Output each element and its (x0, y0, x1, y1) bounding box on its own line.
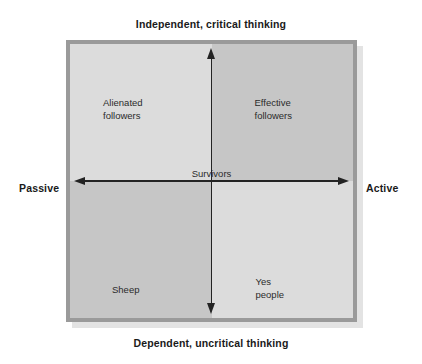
center-label-survivors: Survivors (192, 168, 232, 179)
quadrant-label-sheep: Sheep (112, 284, 139, 297)
arrow-right-inner-icon (338, 177, 349, 185)
quadrant-top-left: Alienated followers (70, 44, 212, 181)
quadrant-label-alienated-followers: Alienated followers (103, 97, 143, 122)
arrow-up-icon (207, 48, 215, 59)
quadrant-label-effective-followers: Effective followers (255, 97, 293, 122)
quadrant-bottom-right: Yes people (212, 181, 354, 318)
matrix-frame: Alienated followers Effective followers … (66, 40, 357, 322)
quadrant-label-yes-people: Yes people (256, 276, 285, 301)
axis-label-bottom: Dependent, uncritical thinking (0, 337, 422, 349)
quadrant-bottom-left: Sheep (70, 181, 212, 318)
axis-label-right: Active (366, 182, 398, 194)
arrow-left-inner-icon (74, 177, 85, 185)
horizontal-axis-line (84, 180, 339, 181)
followership-matrix-figure: Independent, critical thinking Dependent… (0, 0, 422, 364)
axis-label-left: Passive (19, 182, 59, 194)
quadrant-top-right: Effective followers (212, 44, 354, 181)
axis-label-top: Independent, critical thinking (0, 18, 422, 30)
arrow-down-icon (207, 303, 215, 314)
